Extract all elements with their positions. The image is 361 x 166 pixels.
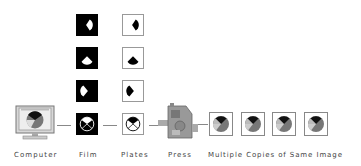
printed-copy [304, 112, 328, 136]
image-wedge-icon [80, 86, 88, 97]
image-wedge-icon [86, 20, 93, 31]
color-wheel-icon [243, 114, 263, 134]
plate-composite [122, 113, 144, 135]
image-wedge-icon [82, 56, 93, 65]
printed-copy [209, 112, 233, 136]
film-composite [76, 113, 98, 135]
image-wedge-icon [126, 86, 134, 97]
plate-separation-1 [122, 14, 144, 36]
label-film: Film [79, 151, 98, 159]
label-plates: Plates [121, 151, 149, 159]
plate-separation-3 [122, 80, 144, 102]
printing-press-icon [158, 100, 200, 142]
color-wheel-icon [306, 114, 326, 134]
film-separation-2 [76, 47, 98, 69]
printed-copy [241, 112, 265, 136]
image-wedge-icon [128, 56, 139, 65]
connector-line [198, 124, 208, 125]
label-press: Press [168, 151, 192, 159]
image-wedge-icon [132, 20, 139, 31]
color-wheel-icon [211, 114, 231, 134]
color-wheel-icon [274, 114, 294, 134]
plate-separation-2 [122, 47, 144, 69]
label-copies: Multiple Copies of Same Image [208, 151, 343, 159]
label-computer: Computer [14, 151, 58, 159]
film-separation-3 [76, 80, 98, 102]
printed-copy [272, 112, 296, 136]
film-separation-1 [76, 14, 98, 36]
connector-line [103, 125, 117, 126]
connector-line [57, 125, 71, 126]
computer-monitor-icon [15, 105, 55, 141]
